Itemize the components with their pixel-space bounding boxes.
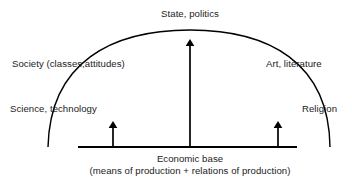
label-society: Society (classes,attitudes) (12, 58, 125, 69)
label-economic-base-detail: (means of production + relations of prod… (90, 165, 291, 176)
superstructure-arch (48, 30, 330, 147)
label-economic-base: Economic base (157, 153, 223, 164)
label-religion: Religion (302, 103, 337, 114)
label-art-literature: Art, literature (266, 58, 322, 69)
label-state-politics: State, politics (161, 8, 219, 19)
label-science-technology: Science, technology (10, 103, 97, 114)
base-superstructure-diagram: State, politics Society (classes,attitud… (0, 0, 352, 184)
